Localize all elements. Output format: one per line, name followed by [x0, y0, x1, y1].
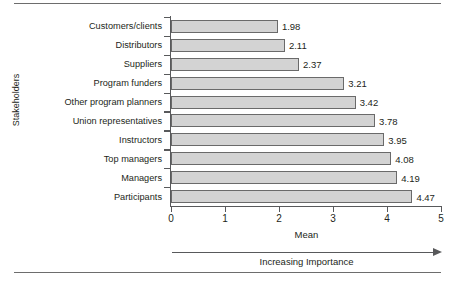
category-label: Suppliers	[124, 59, 162, 69]
category-label: Distributors	[116, 40, 162, 50]
bar-value-label: 4.47	[416, 191, 435, 202]
y-axis-title: Stakeholders	[11, 55, 21, 145]
bar	[171, 152, 391, 165]
bar	[171, 190, 412, 203]
x-axis-tick-label: 4	[377, 213, 397, 224]
bar-row: Distributors2.11	[171, 39, 441, 52]
x-axis-line	[171, 206, 442, 207]
x-axis-tick	[225, 206, 226, 212]
bar-value-label: 3.21	[348, 78, 367, 89]
bar-row: Program funders3.21	[171, 77, 441, 90]
category-label: Managers	[121, 173, 162, 183]
category-label: Other program planners	[64, 97, 162, 107]
bar-row: Other program planners3.42	[171, 96, 441, 109]
plot-area: Customers/clients1.98Distributors2.11Sup…	[171, 17, 441, 206]
bar-row: Customers/clients1.98	[171, 20, 441, 33]
x-axis-title: Mean	[171, 229, 442, 240]
x-axis-tick	[333, 206, 334, 212]
bar-value-label: 3.42	[360, 97, 379, 108]
y-axis-tick	[164, 74, 170, 75]
bar-row: Participants4.47	[171, 190, 441, 203]
x-axis-tick-label: 2	[269, 213, 289, 224]
bar	[171, 96, 356, 109]
bar-value-label: 4.08	[395, 153, 414, 164]
bar-value-label: 1.98	[282, 21, 301, 32]
y-axis-tick	[164, 168, 170, 169]
increasing-importance-arrow-line	[172, 252, 434, 253]
category-label: Union representatives	[73, 116, 162, 126]
bar	[171, 171, 397, 184]
figure-top-rule	[14, 3, 441, 4]
bar-row: Instructors3.95	[171, 133, 441, 146]
y-axis-tick	[164, 130, 170, 131]
x-axis-tick-label: 0	[161, 213, 181, 224]
bar	[171, 133, 384, 146]
bar	[171, 77, 344, 90]
increasing-importance-arrow-icon	[433, 248, 442, 256]
y-axis-tick	[164, 55, 170, 56]
bar	[171, 20, 278, 33]
bar-value-label: 4.19	[401, 172, 420, 183]
x-axis-tick	[171, 206, 172, 212]
category-label: Top managers	[104, 154, 162, 164]
bar-row: Managers4.19	[171, 171, 441, 184]
bar-value-label: 2.37	[303, 59, 322, 70]
chart-figure: Stakeholders Customers/clients1.98Distri…	[0, 0, 455, 287]
x-axis-tick	[279, 206, 280, 212]
bar-row: Top managers4.08	[171, 152, 441, 165]
category-label: Instructors	[119, 135, 162, 145]
y-axis-tick	[164, 149, 170, 150]
bar-row: Union representatives3.78	[171, 114, 441, 127]
bar-value-label: 3.78	[379, 115, 398, 126]
category-label: Program funders	[94, 78, 162, 88]
bar	[171, 39, 285, 52]
bar-row: Suppliers2.37	[171, 58, 441, 71]
y-axis-tick	[164, 17, 170, 18]
y-axis-tick	[164, 111, 170, 112]
x-axis-tick-label: 1	[215, 213, 235, 224]
category-label: Participants	[114, 192, 162, 202]
bar	[171, 58, 299, 71]
x-axis-tick-label: 3	[323, 213, 343, 224]
x-axis-tick-label: 5	[431, 213, 451, 224]
x-axis-tick	[387, 206, 388, 212]
y-axis-tick	[164, 36, 170, 37]
bar	[171, 114, 375, 127]
bar-value-label: 3.95	[388, 134, 407, 145]
y-axis-tick	[164, 187, 170, 188]
y-axis-tick	[164, 93, 170, 94]
figure-bottom-rule	[14, 272, 441, 273]
bar-value-label: 2.11	[289, 40, 307, 51]
increasing-importance-caption: Increasing Importance	[171, 256, 442, 267]
x-axis-tick	[441, 206, 442, 212]
category-label: Customers/clients	[89, 21, 162, 31]
